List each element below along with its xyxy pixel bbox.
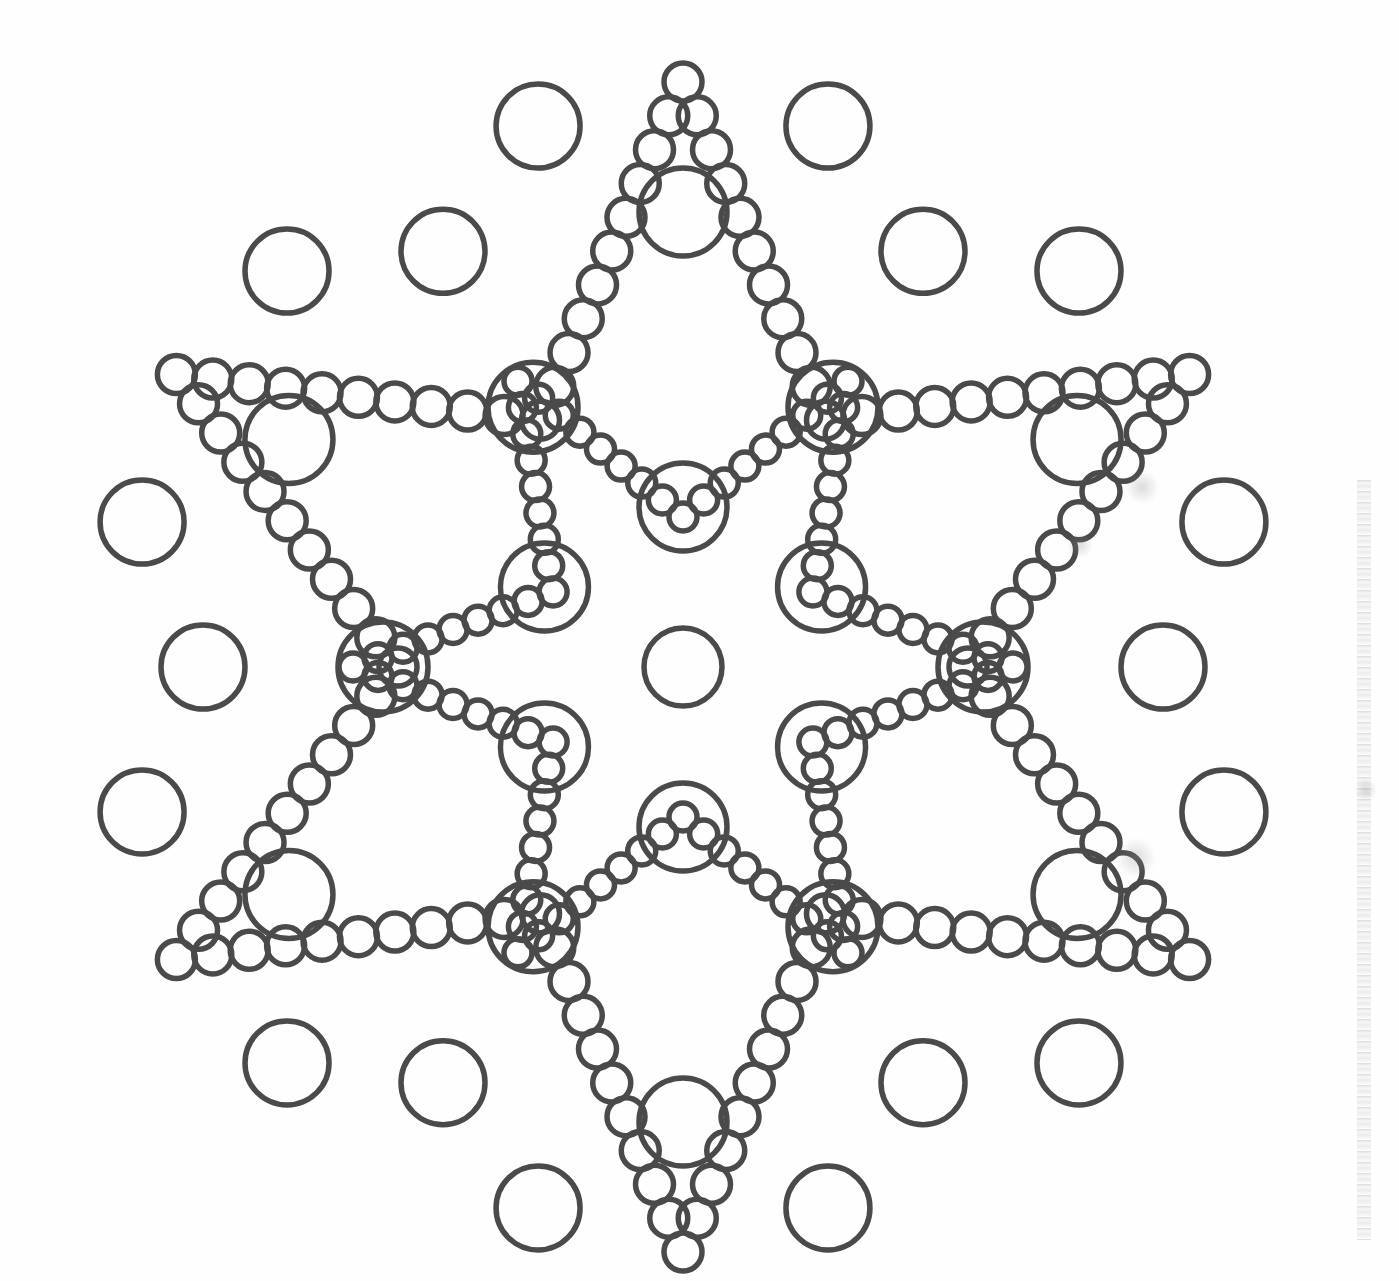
paper-background <box>0 0 1399 1281</box>
coloring-page-canvas: Dotted Mandala Coloring Page Black-and-w… <box>0 0 1399 1281</box>
mandala-artwork <box>0 0 1399 1281</box>
